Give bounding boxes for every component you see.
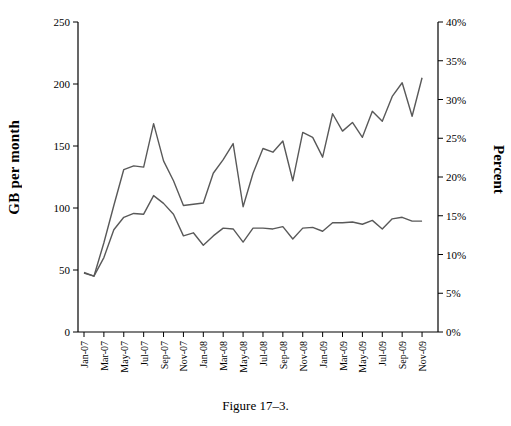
y-tick-label-right: 15% [446,210,466,222]
y-tick-label-right: 35% [446,55,466,67]
x-tick-label: Sep-09 [397,341,408,369]
y-tick-label-right: 25% [446,132,466,144]
x-tick-label: May-09 [357,341,368,373]
y-tick-label-left: 200 [54,78,71,90]
x-tick-label: Jul-07 [139,341,150,366]
figure-caption: Figure 17–3. [0,398,511,414]
series-line-gb-per-month [84,78,422,276]
x-tick-label: Sep-08 [278,341,289,369]
x-tick-label: Nov-09 [417,341,428,372]
figure-container: GB per month Percent Figure 17–3. 050100… [0,0,511,426]
x-tick-label: Jul-08 [258,341,269,366]
y-axis-title-left: GB per month [6,120,30,215]
y-tick-label-right: 5% [446,287,461,299]
x-tick-label: Jan-09 [318,341,329,368]
y-tick-label-left: 50 [59,264,71,276]
x-tick-label: Sep-07 [159,341,170,369]
x-tick-label: Nov-07 [178,341,189,372]
x-tick-label: Mar-08 [218,341,229,371]
x-tick-label: May-07 [119,341,130,373]
y-tick-label-right: 10% [446,249,466,261]
y-tick-label-left: 150 [54,140,71,152]
x-tick-label: Jan-07 [79,341,90,368]
y-tick-label-right: 0% [446,326,461,338]
y-tick-label-right: 30% [446,94,466,106]
x-tick-label: Jan-08 [198,341,209,368]
y-tick-label-right: 40% [446,16,466,28]
series-line-percent [84,196,422,277]
y-tick-label-left: 0 [65,326,71,338]
y-tick-label-left: 100 [54,202,71,214]
y-tick-label-left: 250 [54,16,71,28]
y-tick-label-right: 20% [446,171,466,183]
x-tick-label: Mar-09 [338,341,349,371]
x-tick-label: Nov-08 [298,341,309,372]
x-tick-label: May-08 [238,341,249,373]
y-axis-title-right: Percent [485,145,507,194]
x-tick-label: Jul-09 [377,341,388,366]
chart-plot: 0501001502002500%5%10%15%20%25%30%35%40%… [0,0,511,400]
x-tick-label: Mar-07 [99,341,110,371]
